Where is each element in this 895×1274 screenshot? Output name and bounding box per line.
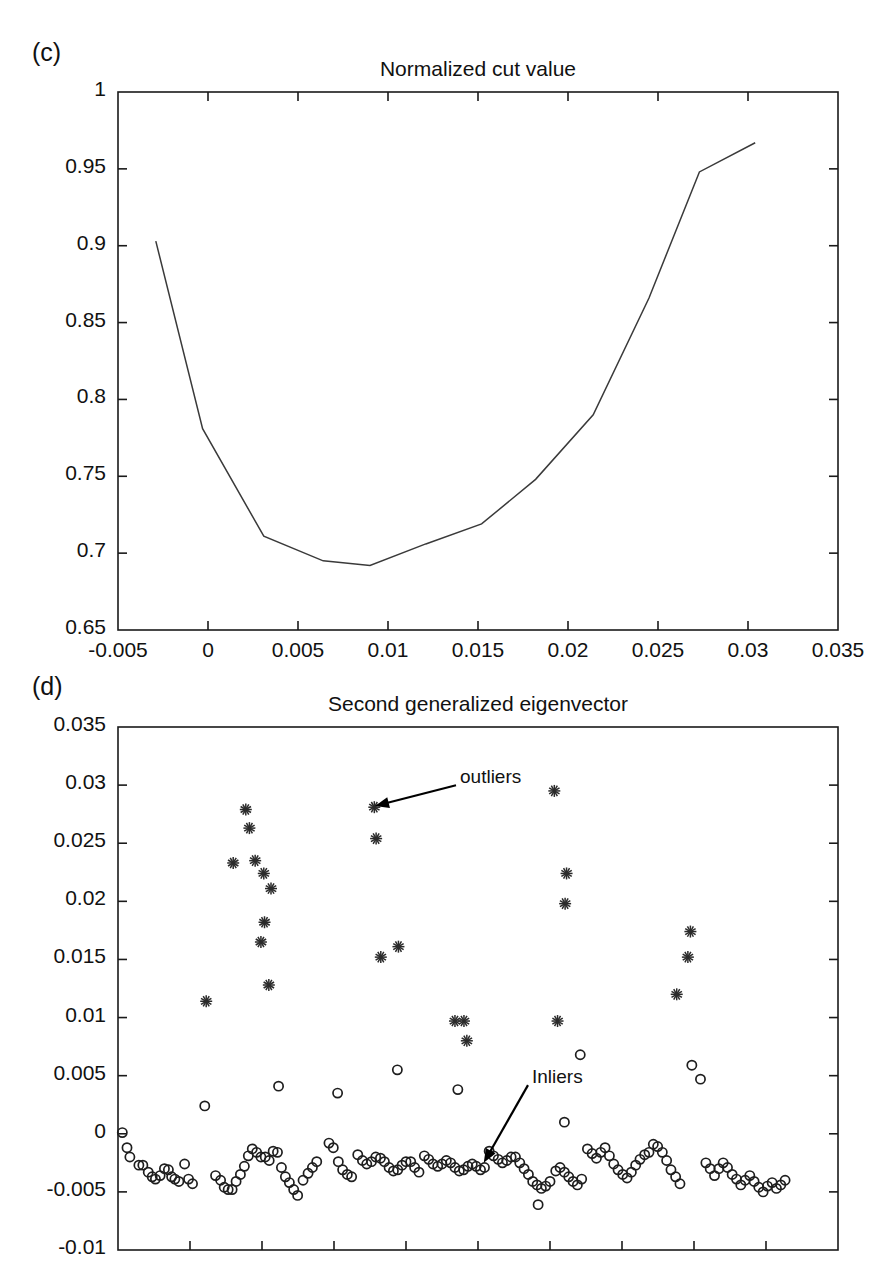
panel-d-ytick-label: 0.02 [0, 886, 106, 910]
panel-d-ytick-label: 0.035 [0, 712, 106, 736]
outlier-marker [684, 926, 696, 938]
panel-d-ytick-label: 0.025 [0, 828, 106, 852]
inlier-marker [180, 1159, 189, 1168]
outlier-marker [255, 936, 267, 948]
outlier-marker [240, 804, 252, 816]
inlier-marker [122, 1143, 131, 1152]
annotation-label-0: outliers [460, 766, 521, 788]
inlier-marker [675, 1179, 684, 1188]
outlier-marker [243, 822, 255, 834]
inlier-marker [274, 1082, 283, 1091]
annotation-label-1: Inliers [532, 1066, 583, 1088]
inlier-marker [333, 1089, 342, 1098]
outlier-marker [682, 951, 694, 963]
panel-d-ytick-label: -0.005 [0, 1177, 106, 1201]
outlier-marker [265, 883, 277, 895]
annotation-arrow-0 [384, 785, 456, 804]
inlier-marker [240, 1162, 249, 1171]
outlier-marker [370, 833, 382, 845]
inlier-marker [696, 1075, 705, 1084]
inlier-marker [118, 1128, 127, 1137]
inlier-marker [576, 1050, 585, 1059]
panel-d-ytick-label: 0.01 [0, 1003, 106, 1027]
inlier-marker [534, 1200, 543, 1209]
inlier-marker [125, 1152, 134, 1161]
outlier-marker [368, 801, 380, 813]
outlier-marker [552, 1015, 564, 1027]
outlier-marker [227, 857, 239, 869]
outlier-marker [671, 988, 683, 1000]
panel-d-ytick-label: 0.005 [0, 1061, 106, 1085]
outlier-marker [559, 898, 571, 910]
inlier-marker [560, 1118, 569, 1127]
inlier-marker [393, 1065, 402, 1074]
outlier-marker [249, 855, 261, 867]
outlier-marker [200, 995, 212, 1007]
outlier-marker [458, 1015, 470, 1027]
inlier-marker [277, 1163, 286, 1172]
outlier-marker [392, 941, 404, 953]
outlier-marker [461, 1035, 473, 1047]
inlier-marker [687, 1061, 696, 1070]
second-generalized-eigenvector-chart [0, 0, 895, 1274]
inlier-marker [453, 1085, 462, 1094]
inlier-marker [200, 1101, 209, 1110]
panel-d-ytick-label: 0 [0, 1119, 106, 1143]
outlier-marker [259, 916, 271, 928]
panel-d-ytick-label: -0.01 [0, 1235, 106, 1259]
outlier-marker [548, 785, 560, 797]
outlier-marker [375, 951, 387, 963]
annotation-arrow-1 [488, 1085, 528, 1155]
outlier-marker [561, 867, 573, 879]
panel-d-ytick-label: 0.03 [0, 770, 106, 794]
outlier-marker [263, 979, 275, 991]
panel-d-ytick-label: 0.015 [0, 944, 106, 968]
outlier-marker [258, 867, 270, 879]
inlier-marker [662, 1156, 671, 1165]
